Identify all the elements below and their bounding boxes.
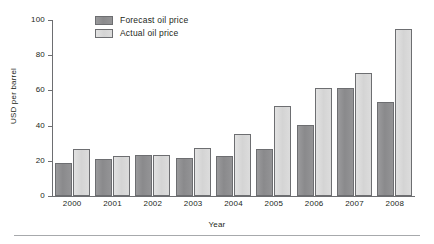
y-axis-title: USD per barrel [10, 46, 18, 146]
x-axis-title: Year [0, 221, 434, 229]
x-axis-tick-label: 2005 [251, 200, 297, 208]
bar-actual [315, 88, 332, 196]
legend-label-actual: Actual oil price [120, 29, 178, 38]
legend-label-forecast: Forecast oil price [120, 16, 188, 25]
x-axis-line [52, 196, 415, 197]
y-axis-tick-label: 0 [17, 192, 45, 200]
legend-swatch-forecast-icon [95, 16, 113, 25]
bar-actual [113, 156, 130, 196]
y-axis-tick-label: 80 [17, 51, 45, 59]
bar-forecast [377, 102, 394, 196]
footer-divider [14, 235, 420, 236]
bar-forecast [135, 155, 152, 196]
bar-forecast [337, 88, 354, 196]
y-axis-tick-label: 40 [17, 122, 45, 130]
bar-actual [234, 134, 251, 196]
x-axis-tick-label: 2004 [211, 200, 257, 208]
bar-actual [153, 155, 170, 196]
bar-group [297, 20, 332, 196]
bar-group [216, 20, 251, 196]
bar-group [55, 20, 90, 196]
bar-group [377, 20, 412, 196]
x-axis-tick-label: 2003 [170, 200, 216, 208]
y-axis-tick-label: 20 [17, 157, 45, 165]
bar-actual [73, 149, 90, 196]
legend-swatch-actual-icon [95, 29, 113, 38]
bar-group [337, 20, 372, 196]
bar-group [95, 20, 130, 196]
bar-chart-figure: 020406080100 USD per barrel 200020012002… [0, 0, 434, 244]
legend-item-forecast: Forecast oil price [95, 15, 188, 26]
bar-group [176, 20, 211, 196]
chart-legend: Forecast oil price Actual oil price [95, 15, 188, 41]
bar-forecast [216, 156, 233, 196]
x-axis-tick-label: 2001 [90, 200, 136, 208]
y-axis-tick [48, 196, 52, 197]
bar-actual [355, 73, 372, 196]
x-axis-tick-label: 2002 [130, 200, 176, 208]
bar-actual [395, 29, 412, 196]
bar-forecast [256, 149, 273, 196]
y-axis-tick-label: 60 [17, 86, 45, 94]
x-axis-tick-label: 2008 [372, 200, 418, 208]
bar-forecast [95, 159, 112, 196]
bar-forecast [297, 125, 314, 196]
legend-item-actual: Actual oil price [95, 28, 188, 39]
x-axis-tick-label: 2006 [291, 200, 337, 208]
bar-actual [194, 148, 211, 196]
bar-forecast [176, 158, 193, 196]
y-axis-tick-label: 100 [17, 16, 45, 24]
bar-groups [52, 20, 415, 196]
bar-actual [274, 106, 291, 196]
bar-group [256, 20, 291, 196]
bar-forecast [55, 163, 72, 196]
x-axis-tick-label: 2000 [49, 200, 95, 208]
x-axis-tick-label: 2007 [332, 200, 378, 208]
bar-group [135, 20, 170, 196]
